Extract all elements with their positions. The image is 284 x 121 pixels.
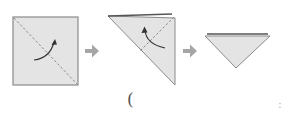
caption-close-mark: : (278, 99, 282, 110)
caption-open-paren: ( (127, 91, 134, 108)
step-arrow-right-icon (85, 45, 99, 58)
triangle-top-edge (108, 14, 172, 16)
step-2-triangle (108, 14, 175, 85)
step-arrow-right-icon (183, 45, 197, 58)
step-3-triangle (205, 34, 270, 68)
origami-diagram (0, 0, 284, 121)
step-1-square (13, 17, 78, 85)
